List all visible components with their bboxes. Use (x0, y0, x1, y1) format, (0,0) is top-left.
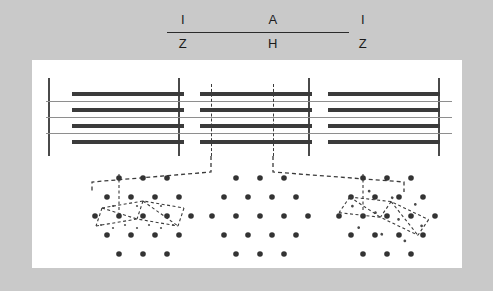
right-lattice-dots (336, 175, 438, 257)
slab-region2-0 (328, 92, 440, 96)
slab-region2-3 (328, 140, 440, 144)
left-lattice-minor-dots (100, 205, 174, 229)
right-lattice-svg (320, 168, 456, 264)
slab-region2-1 (328, 108, 440, 112)
slab-region2-2 (328, 124, 440, 128)
slab-region0-0 (72, 92, 184, 96)
slab-region1-0 (200, 92, 312, 96)
right-lattice (320, 168, 456, 264)
diagram-panel (32, 60, 462, 268)
header-bottom-label-2: Z (343, 34, 383, 54)
stack-grayline-1 (46, 117, 452, 118)
slab-region0-2 (72, 124, 184, 128)
left-lattice (80, 168, 210, 264)
slab-region1-3 (200, 140, 312, 144)
slab-region0-1 (72, 108, 184, 112)
figure-root: I A I Z H Z (0, 0, 493, 291)
middle-dash-marker-left (211, 84, 212, 156)
middle-dash-marker-right (273, 84, 274, 156)
left-lattice-svg (80, 168, 210, 264)
header-bottom-label-0: Z (163, 34, 203, 54)
header-divider-rule (167, 32, 349, 33)
slab-region0-3 (72, 140, 184, 144)
header-labels: I A I Z H Z (0, 10, 493, 56)
header-bottom-row: Z H Z (0, 34, 493, 55)
header-top-label-2: I (343, 10, 383, 30)
layer-stack-cross-section (32, 60, 462, 160)
stack-grayline-0 (46, 101, 452, 102)
header-top-label-1: A (253, 10, 293, 30)
left-lattice-overlay-rhombus (96, 201, 184, 226)
middle-lattice (197, 168, 327, 264)
slab-region1-1 (200, 108, 312, 112)
slab-region1-2 (200, 124, 312, 128)
header-top-row: I A I (0, 10, 493, 31)
stack-grayline-2 (46, 133, 452, 134)
left-lattice-dots (92, 175, 194, 257)
middle-lattice-dots (209, 175, 311, 257)
header-top-label-0: I (163, 10, 203, 30)
header-bottom-label-1: H (253, 34, 293, 54)
middle-lattice-svg (197, 168, 327, 264)
